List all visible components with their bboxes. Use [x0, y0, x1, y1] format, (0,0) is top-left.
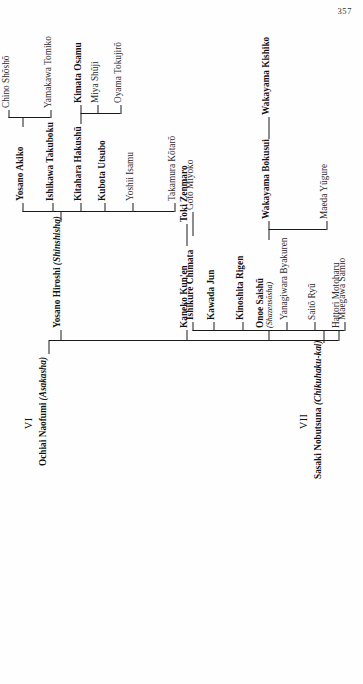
- connector-sasaki-stem: [323, 331, 324, 343]
- connector-ochiai-stem: [48, 341, 49, 354]
- connector-chino: [8, 110, 9, 118]
- node-yosano-hiroshi-name: Yosano Hiroshi: [51, 267, 61, 328]
- node-chino-shosho: Chino Shōshō: [1, 56, 11, 108]
- connector-kawada: [213, 322, 214, 331]
- node-miya-shuji: Miya Shūji: [90, 61, 100, 103]
- connector-onoe: [268, 330, 269, 341]
- node-goto-miyoko: Gotō Miyoko: [185, 160, 195, 210]
- generation-label-vi: VI: [22, 417, 33, 429]
- node-yosano-akiko: Yosano Akiko: [15, 146, 25, 201]
- connector-kubota: [104, 203, 105, 212]
- connector-onoe-stem: [268, 230, 269, 240]
- connector-hattori: [338, 330, 339, 341]
- connector-yosano-bus: [22, 211, 174, 212]
- connector-hakushu-bus: [80, 113, 120, 114]
- connector-maeda: [326, 221, 327, 230]
- connector-kaneko: [186, 330, 187, 341]
- node-sasaki-nobutsuna-name: Sasaki Nobutsuna: [312, 407, 322, 479]
- node-ochiai-naofumi: Ochiai Naofumi (Asakasha): [38, 357, 48, 466]
- connector-maegawa: [344, 322, 345, 331]
- connector-yamakawa: [50, 110, 51, 118]
- node-ishikure-chimata: Ishikure Chimata: [185, 250, 195, 320]
- connector-ishikure: [192, 322, 193, 331]
- node-yoshii-isamu: Yoshii Isamu: [125, 152, 135, 201]
- connector-kimata: [80, 105, 81, 114]
- node-yamakawa-tomiko: Yamakawa Tomiko: [43, 36, 53, 108]
- node-wakayama-bokusui: Wakayama Bokusui: [261, 139, 271, 219]
- node-onoe-saishu-school: (Shazensōsha): [265, 278, 273, 328]
- node-kinoshita-rigen: Kinoshita Rigen: [235, 256, 245, 320]
- node-saito-ryu: Saitō Ryū: [307, 283, 317, 320]
- node-kitahara-hakushu: Kitahara Hakushū: [73, 126, 83, 201]
- node-yanagiwara-byakuren: Yanagiwara Byakuren: [279, 238, 289, 320]
- connector-onoe-bus: [268, 229, 326, 230]
- connector-takamura: [174, 203, 175, 212]
- node-sasaki-nobutsuna-school: (Chikuhaku-kai): [312, 341, 322, 406]
- connector-kaneko-stem: [186, 224, 187, 246]
- connector-kitahara: [80, 203, 81, 212]
- node-yosano-hiroshi: Yosano Hiroshi (Shinshisha): [52, 216, 62, 328]
- connector-akiko: [22, 203, 23, 212]
- connector-ishikawa: [52, 203, 53, 212]
- connector-ishikure-stem: [192, 212, 193, 236]
- connector-akiko-stem: [22, 118, 23, 127]
- node-yosano-hiroshi-school: (Shinshisha): [51, 216, 61, 265]
- connector-kinoshita: [242, 322, 243, 331]
- connector-ochiai-bus: [48, 340, 338, 341]
- node-maeda-yugure: Maeda Yūgure: [319, 164, 329, 219]
- generation-label-vii: VII: [297, 414, 308, 429]
- node-ishikawa-takuboku: Ishikawa Takuboku: [45, 122, 55, 201]
- node-takamura-kotaro: Takamura Kōtarō: [167, 136, 177, 201]
- connector-yoshii: [132, 203, 133, 212]
- node-onoe-saishu: Onoe Saishū (Shazensōsha): [255, 278, 273, 328]
- connector-akiko-bus: [8, 117, 50, 118]
- connector-yosano-stem: [60, 212, 61, 222]
- connector-sasaki-bus: [192, 330, 344, 331]
- node-kubota-utsubo: Kubota Utsubo: [97, 140, 107, 201]
- node-kimata-osamu: Kimata Osamu: [73, 42, 83, 103]
- node-maegawa-samio: Maegawa Samio: [337, 258, 347, 320]
- node-onoe-saishu-name: Onoe Saishū: [254, 278, 264, 328]
- connector-miya: [97, 105, 98, 114]
- connector-hakushu-stem: [80, 114, 81, 124]
- connector-oyama: [120, 105, 121, 114]
- connector-yanagiwara: [286, 322, 287, 331]
- lineage-diagram: VI Ochiai Naofumi (Asakasha) Hattori Mot…: [0, 0, 363, 684]
- node-ochiai-naofumi-school: (Asakasha): [37, 357, 47, 400]
- connector-bokusui: [268, 221, 269, 230]
- node-wakayama-kishiko: Wakayama Kishiko: [261, 37, 271, 115]
- connector-yosano-hiroshi: [60, 330, 61, 341]
- node-ochiai-naofumi-name: Ochiai Naofumi: [37, 403, 47, 466]
- node-oyama-tokujiro: Oyama Tokujirō: [113, 42, 123, 103]
- node-sasaki-nobutsuna: Sasaki Nobutsuna (Chikuhaku-kai): [313, 341, 323, 480]
- connector-bokusui-stem: [268, 117, 269, 139]
- node-kawada-jun: Kawada Jun: [206, 270, 216, 320]
- connector-saito: [314, 322, 315, 331]
